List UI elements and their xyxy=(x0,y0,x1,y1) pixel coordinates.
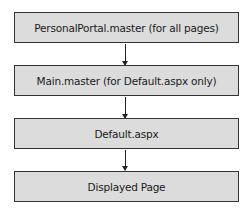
arrow-3 xyxy=(125,150,126,170)
node-label: Main.master (for Default.aspx only) xyxy=(37,75,217,87)
node-label: PersonalPortal.master (for all pages) xyxy=(34,22,218,34)
node-default-aspx: Default.aspx xyxy=(14,118,239,149)
node-label: Default.aspx xyxy=(94,128,158,140)
arrow-1 xyxy=(125,44,126,65)
node-main-master: Main.master (for Default.aspx only) xyxy=(14,65,239,96)
node-personalportal-master: PersonalPortal.master (for all pages) xyxy=(14,12,239,43)
node-displayed-page: Displayed Page xyxy=(14,171,239,202)
arrow-2 xyxy=(125,97,126,118)
node-label: Displayed Page xyxy=(88,181,166,193)
